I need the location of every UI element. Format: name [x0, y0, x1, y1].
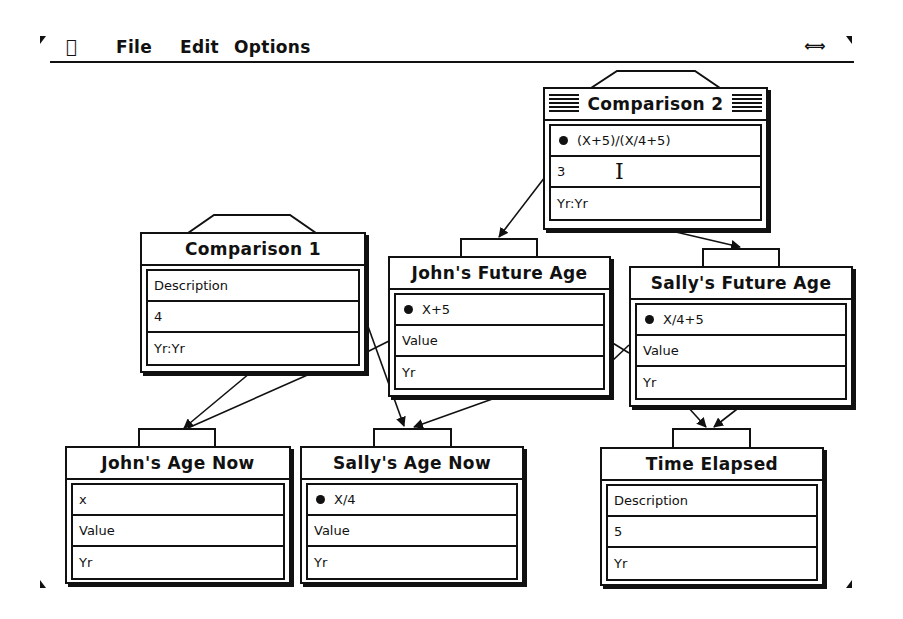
bullet-icon: [316, 495, 325, 504]
field-text: x: [79, 492, 87, 507]
field-value[interactable]: 4: [148, 302, 358, 333]
node-johns-future-age[interactable]: John's Future Age X+5 Value Yr: [388, 256, 611, 397]
field-text: Yr:Yr: [557, 196, 588, 211]
title-stripes-right: [732, 94, 762, 112]
johns-age-now-tab: [138, 428, 216, 448]
node-comparison-1[interactable]: Comparison 1 Description 4 Yr:Yr: [140, 232, 366, 373]
node-title-bar[interactable]: Sally's Age Now: [302, 448, 522, 480]
bullet-icon: [645, 315, 654, 324]
node-fields: (X+5)/(X/4+5) 3I Yr:Yr: [549, 124, 762, 221]
comparison2-tab: [591, 71, 720, 88]
field-units[interactable]: Yr:Yr: [551, 188, 760, 219]
field-formula[interactable]: Description: [148, 271, 358, 302]
menu-bar:  File Edit Options ⟺: [52, 34, 852, 60]
window-corner-bottom-right: [846, 580, 852, 588]
field-formula[interactable]: X+5: [396, 295, 603, 326]
menu-options[interactable]: Options: [234, 37, 311, 57]
node-title-bar[interactable]: Comparison 2: [545, 89, 766, 121]
app-switcher-icon[interactable]: ⟺: [804, 37, 826, 55]
node-title: Comparison 2: [581, 94, 729, 114]
field-text: 5: [614, 524, 622, 539]
field-text: Yr: [643, 375, 656, 390]
field-text: X/4: [334, 492, 356, 507]
node-sallys-future-age[interactable]: Sally's Future Age X/4+5 Value Yr: [629, 266, 853, 407]
node-title: Sally's Age Now: [327, 453, 497, 473]
field-units[interactable]: Yr: [637, 367, 845, 398]
apple-menu-icon[interactable]: : [66, 36, 77, 57]
field-text: X+5: [422, 302, 450, 317]
field-formula[interactable]: Description: [608, 486, 816, 517]
field-value[interactable]: Value: [637, 336, 845, 367]
field-text: Value: [643, 343, 679, 358]
field-formula[interactable]: X/4+5: [637, 305, 845, 336]
node-fields: Description 4 Yr:Yr: [146, 269, 360, 366]
field-text: X/4+5: [663, 312, 704, 327]
i-beam-cursor-icon: I: [615, 161, 624, 183]
node-fields: X/4 Value Yr: [306, 483, 518, 580]
time-elapsed-tab: [672, 428, 751, 449]
node-title-bar[interactable]: Sally's Future Age: [631, 268, 851, 300]
field-text: Yr: [402, 365, 415, 380]
field-text: Description: [614, 493, 688, 508]
field-units[interactable]: Yr: [73, 547, 283, 578]
sallys-future-age-tab: [702, 248, 780, 268]
field-text: (X+5)/(X/4+5): [577, 133, 670, 148]
node-title-bar[interactable]: Comparison 1: [142, 234, 364, 266]
node-fields: x Value Yr: [71, 483, 285, 580]
menu-edit[interactable]: Edit: [180, 37, 219, 57]
node-title: Comparison 1: [179, 239, 327, 259]
field-value[interactable]: Value: [396, 326, 603, 357]
bullet-icon: [404, 305, 413, 314]
menu-bar-divider: [50, 61, 854, 63]
field-formula[interactable]: X/4: [308, 485, 516, 516]
field-text: Value: [314, 523, 350, 538]
bullet-icon: [559, 136, 568, 145]
comparison1-tab: [188, 215, 316, 233]
field-text: Yr: [314, 555, 327, 570]
field-formula[interactable]: (X+5)/(X/4+5): [551, 126, 760, 157]
window-corner-top-left: [40, 36, 46, 44]
field-text: Description: [154, 278, 228, 293]
field-units[interactable]: Yr: [608, 548, 816, 579]
field-text: Value: [79, 523, 115, 538]
node-comparison-2[interactable]: Comparison 2 (X+5)/(X/4+5) 3I Yr:Yr: [543, 87, 768, 230]
field-text: 4: [154, 309, 162, 324]
field-value[interactable]: 5: [608, 517, 816, 548]
node-title: Time Elapsed: [640, 454, 784, 474]
node-title-bar[interactable]: Time Elapsed: [602, 449, 822, 481]
node-title: John's Age Now: [95, 453, 260, 473]
field-value[interactable]: 3I: [551, 157, 760, 188]
field-text: Yr: [79, 555, 92, 570]
field-text: Value: [402, 333, 438, 348]
sallys-age-now-tab: [373, 428, 452, 448]
menu-file[interactable]: File: [116, 37, 152, 57]
node-fields: Description 5 Yr: [606, 484, 818, 581]
node-sallys-age-now[interactable]: Sally's Age Now X/4 Value Yr: [300, 446, 524, 584]
node-title: John's Future Age: [405, 263, 593, 283]
node-time-elapsed[interactable]: Time Elapsed Description 5 Yr: [600, 447, 824, 586]
field-formula[interactable]: x: [73, 485, 283, 516]
field-units[interactable]: Yr: [396, 357, 603, 388]
field-text: Yr: [614, 556, 627, 571]
node-title-bar[interactable]: John's Future Age: [390, 258, 609, 290]
title-stripes-left: [549, 94, 579, 112]
node-title-bar[interactable]: John's Age Now: [67, 448, 289, 480]
field-units[interactable]: Yr:Yr: [148, 333, 358, 364]
field-value[interactable]: Value: [308, 516, 516, 547]
node-fields: X+5 Value Yr: [394, 293, 605, 390]
node-johns-age-now[interactable]: John's Age Now x Value Yr: [65, 446, 291, 584]
node-title: Sally's Future Age: [645, 273, 838, 293]
window-corner-bottom-left: [40, 580, 46, 588]
field-value[interactable]: Value: [73, 516, 283, 547]
johns-future-age-tab: [460, 238, 538, 258]
field-text: Yr:Yr: [154, 341, 185, 356]
field-units[interactable]: Yr: [308, 547, 516, 578]
field-text: 3: [557, 164, 565, 179]
node-fields: X/4+5 Value Yr: [635, 303, 847, 400]
